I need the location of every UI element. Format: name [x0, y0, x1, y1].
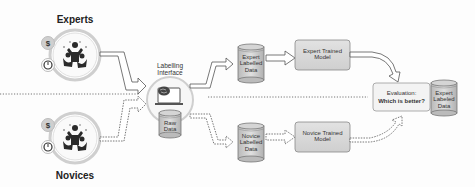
- novice-labelled-data-label: Novice Labelled Data: [239, 133, 263, 152]
- labelling-interface-label: Labelling Interface: [148, 63, 192, 77]
- evaluation-question: Which is better?: [374, 98, 429, 104]
- eval-expert-data-label: Expert Labeled Data: [432, 90, 456, 109]
- raw-data-label: Raw Data: [161, 120, 179, 133]
- experts-to-interface-arrow: [100, 52, 146, 94]
- expert-model-label: Expert Trained Model: [297, 48, 348, 61]
- novice-model-label: Novice Trained Model: [297, 130, 348, 143]
- diagram: $ $: [0, 0, 475, 187]
- novices-timer-icon: [42, 141, 55, 154]
- experts-label: Experts: [50, 15, 100, 26]
- novice-data-to-model-arrow: [266, 130, 295, 144]
- expert-labelled-data-label: Expert Labelled Data: [239, 54, 263, 73]
- novice-model-to-eval-arrow: [350, 116, 402, 142]
- svg-text:$: $: [46, 39, 51, 48]
- novices-to-interface-arrow: [100, 96, 146, 141]
- svg-text:$: $: [46, 121, 51, 130]
- expert-model-to-eval-arrow: [350, 52, 400, 82]
- brain-icon: [158, 87, 170, 96]
- evaluation-title: Evaluation:: [374, 90, 429, 96]
- novices-dollar-icon: $: [42, 119, 55, 132]
- evaluation-box: [373, 83, 430, 111]
- interface-to-expert-data-arrow: [190, 58, 233, 88]
- novices-label: Novices: [50, 171, 100, 182]
- experts-dollar-icon: $: [42, 37, 55, 50]
- expert-data-to-model-arrow: [266, 51, 295, 65]
- novices-circle: [50, 113, 100, 163]
- experts-circle: [50, 30, 100, 80]
- experts-timer-icon: [42, 59, 55, 72]
- interface-to-novice-data-arrow: [190, 114, 233, 148]
